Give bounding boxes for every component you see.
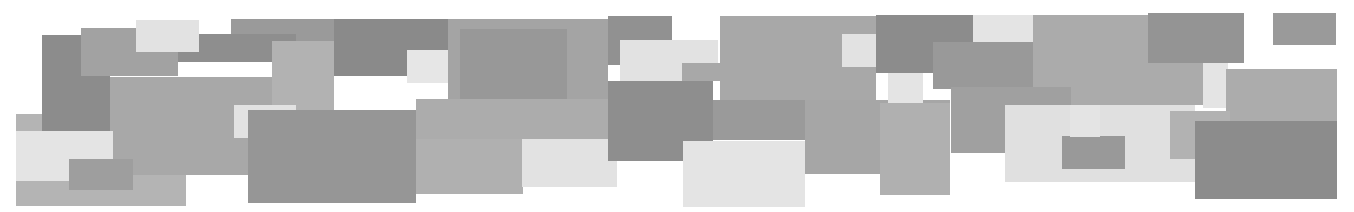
gray-rectangle xyxy=(136,20,199,52)
gray-rectangle xyxy=(682,63,722,81)
gray-rectangle xyxy=(888,73,923,103)
gray-rectangle xyxy=(880,103,950,195)
gray-rectangle xyxy=(460,29,567,99)
gray-rectangle xyxy=(1195,121,1337,199)
gray-rectangle xyxy=(248,110,416,203)
gray-rectangle xyxy=(272,41,334,111)
gray-rectangle xyxy=(522,139,617,187)
gray-rectangle xyxy=(416,99,610,139)
gray-rectangle xyxy=(1148,13,1244,63)
gray-rectangle xyxy=(683,141,805,207)
abstract-rectangle-composition xyxy=(0,0,1354,212)
gray-rectangle xyxy=(1273,13,1336,45)
gray-rectangle xyxy=(1203,63,1228,108)
gray-rectangle xyxy=(1226,69,1337,121)
gray-rectangle xyxy=(69,159,133,190)
gray-rectangle xyxy=(933,42,1033,89)
gray-rectangle xyxy=(973,15,1033,42)
gray-rectangle xyxy=(1062,136,1125,169)
gray-rectangle xyxy=(1070,105,1100,137)
gray-rectangle xyxy=(416,139,523,194)
